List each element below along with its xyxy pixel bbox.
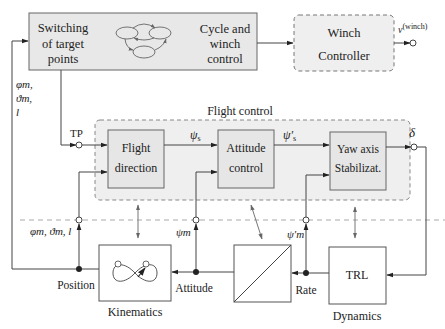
- block-diagram: Switching of target points Cycle and win…: [0, 0, 445, 329]
- cycle-label-1: Cycle and: [200, 22, 251, 36]
- attitude-control-block: [218, 130, 274, 188]
- psi-m-label: ψm: [176, 226, 191, 238]
- tp-label: TP: [70, 127, 83, 139]
- rate-node: [303, 270, 309, 276]
- trl-block: TRL: [329, 247, 386, 304]
- cycle-winch-control-block: Switching of target points Cycle and win…: [29, 13, 257, 70]
- kinematics-label: Kinematics: [108, 305, 163, 319]
- flight-direction-label-2: direction: [115, 161, 158, 175]
- switching-label-2: of target: [42, 37, 84, 51]
- integrator-block: [234, 245, 291, 302]
- yaw-label-1: Yaw axis: [337, 143, 379, 155]
- attitude-port: [193, 217, 199, 223]
- kinematics-block: [99, 245, 171, 301]
- yaw-label-2: Stabilizat.: [335, 162, 381, 174]
- winch-controller-block: Winch Controller: [294, 15, 394, 71]
- flight-direction-label-1: Flight: [122, 141, 151, 155]
- tp-port: [76, 142, 82, 148]
- position-signal-label: φm, ϑm, l: [30, 225, 71, 237]
- rate-port: [303, 217, 309, 223]
- dynamics-label: Dynamics: [333, 309, 382, 323]
- flight-control-title: Flight control: [207, 104, 273, 118]
- trl-label: TRL: [346, 268, 369, 282]
- left-feedback-label-2: ϑm,: [16, 92, 32, 104]
- attitude-label-2: control: [229, 161, 264, 175]
- winch-label-2: Controller: [318, 49, 370, 63]
- winch-output-label: v(winch): [398, 22, 428, 35]
- flight-control-group: Flight control Flight direction Attitude…: [95, 104, 410, 200]
- position-node: [76, 266, 82, 272]
- delta-port: [411, 144, 417, 150]
- left-feedback-label-3: l: [16, 106, 19, 118]
- switching-label-1: Switching: [38, 21, 89, 35]
- switching-label-3: points: [48, 52, 79, 66]
- cycle-label-2: winch: [210, 37, 241, 51]
- position-port: [76, 217, 82, 223]
- yaw-axis-block: [330, 132, 386, 190]
- attitude-label: Attitude: [175, 282, 213, 294]
- attitude-node: [193, 269, 199, 275]
- cycle-label-3: control: [207, 52, 243, 66]
- winch-output-port: [410, 40, 416, 46]
- rate-label: Rate: [295, 284, 316, 296]
- position-label: Position: [57, 279, 95, 291]
- left-feedback-label-1: φm,: [16, 78, 33, 90]
- flight-direction-block: [108, 130, 164, 188]
- winch-label-1: Winch: [328, 26, 362, 40]
- psi-m-prime-label: ψ′m: [287, 228, 304, 240]
- delta-label: δ: [409, 125, 416, 140]
- attitude-integrator-link: [251, 205, 262, 239]
- attitude-label-1: Attitude: [226, 141, 265, 155]
